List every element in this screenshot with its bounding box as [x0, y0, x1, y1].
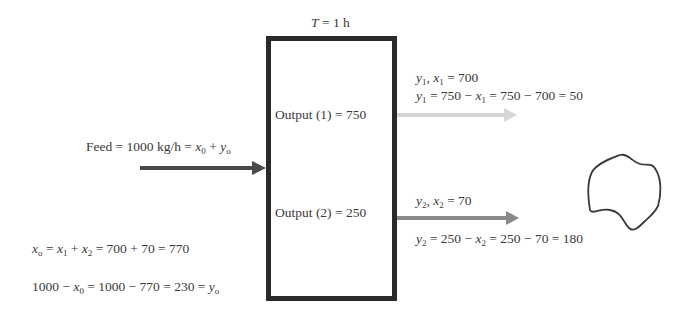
feed-arrow [140, 161, 266, 175]
output1-arrow [397, 108, 517, 122]
diagram-graphics [0, 0, 699, 323]
environment-blob-icon [588, 155, 660, 230]
output2-arrow [397, 211, 519, 225]
